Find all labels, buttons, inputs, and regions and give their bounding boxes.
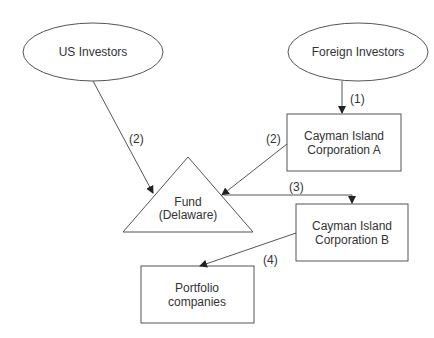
cayman-a-label-2: Corporation A [307, 143, 380, 157]
structure-diagram: US Investors Foreign Investors Cayman Is… [0, 0, 434, 338]
us-investors-label: US Investors [59, 45, 128, 59]
edge-label-1: (1) [350, 92, 365, 106]
portfolio-label-2: companies [168, 295, 226, 309]
edge-label-4: (4) [263, 253, 278, 267]
edge-label-2-us: (2) [129, 132, 144, 146]
cayman-b-label-2: Corporation B [315, 233, 389, 247]
edge-cayman-b-to-portfolio [200, 233, 296, 266]
edge-label-3: (3) [289, 180, 304, 194]
portfolio-label-1: Portfolio [175, 281, 219, 295]
edge-us-to-fund [93, 81, 153, 193]
edge-label-2-cayman: (2) [266, 132, 281, 146]
edge-cayman-a-to-fund [222, 144, 287, 195]
cayman-a-label-1: Cayman Island [304, 129, 384, 143]
cayman-b-label-1: Cayman Island [312, 219, 392, 233]
fund-label-1: Fund [174, 195, 201, 209]
edge-fund-to-cayman-b [224, 195, 352, 203]
fund-label-2: (Delaware) [159, 208, 218, 222]
foreign-investors-label: Foreign Investors [312, 45, 405, 59]
